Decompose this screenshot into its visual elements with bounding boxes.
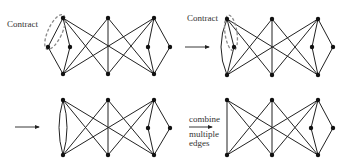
edge bbox=[48, 47, 63, 74]
vertex-br bbox=[316, 73, 320, 77]
edge bbox=[154, 128, 170, 155]
graph-diagram bbox=[0, 0, 355, 163]
vertex-tr bbox=[316, 98, 320, 102]
vertex-tl bbox=[225, 17, 229, 21]
curved-edge bbox=[63, 100, 67, 155]
edge bbox=[48, 18, 63, 47]
vertex-br bbox=[316, 153, 320, 157]
vertex-tr bbox=[316, 17, 320, 21]
vertex-ml1 bbox=[46, 45, 50, 49]
graph-panel-p3 bbox=[59, 98, 172, 157]
vertex-br bbox=[152, 72, 156, 76]
vertex-tl bbox=[61, 16, 65, 20]
graph-panel-p1 bbox=[41, 12, 173, 76]
edge bbox=[154, 100, 170, 128]
vertex-bl bbox=[61, 153, 65, 157]
edge bbox=[318, 47, 333, 75]
edge bbox=[318, 128, 333, 155]
vertex-tc bbox=[270, 17, 274, 21]
vertex-bl bbox=[225, 73, 229, 77]
vertex-mr2 bbox=[331, 126, 335, 130]
vertex-mr1 bbox=[146, 126, 150, 130]
graph-panel-p4 bbox=[225, 98, 335, 157]
vertex-br bbox=[152, 153, 156, 157]
vertex-bl bbox=[61, 72, 65, 76]
vertex-tc bbox=[270, 98, 274, 102]
graph-panel-p2 bbox=[221, 14, 335, 77]
vertex-ml2 bbox=[232, 45, 236, 49]
curved-edge bbox=[59, 100, 63, 155]
vertex-tl bbox=[61, 98, 65, 102]
vertex-tr bbox=[152, 98, 156, 102]
vertex-tl bbox=[225, 98, 229, 102]
contract-label-2: Contract bbox=[187, 14, 218, 23]
vertex-mr1 bbox=[310, 45, 314, 49]
vertex-mr1 bbox=[309, 126, 313, 130]
edge bbox=[154, 18, 170, 47]
edge bbox=[318, 19, 333, 47]
vertex-bc bbox=[270, 153, 274, 157]
vertex-tr bbox=[152, 16, 156, 20]
vertex-bc bbox=[106, 153, 110, 157]
vertex-mr1 bbox=[146, 45, 150, 49]
contract-label-1: Contract bbox=[7, 20, 38, 29]
vertex-bc bbox=[106, 72, 110, 76]
vertex-bc bbox=[270, 73, 274, 77]
vertex-tc bbox=[106, 16, 110, 20]
vertex-mr2 bbox=[331, 45, 335, 49]
edge bbox=[318, 100, 333, 128]
vertex-mr2 bbox=[168, 45, 172, 49]
vertex-ml2 bbox=[68, 45, 72, 49]
vertex-bl bbox=[225, 153, 229, 157]
combine-label: combine bbox=[189, 115, 220, 124]
vertex-tc bbox=[106, 98, 110, 102]
vertex-mr2 bbox=[168, 126, 172, 130]
edges-label: edges bbox=[189, 139, 210, 148]
edge bbox=[154, 47, 170, 74]
